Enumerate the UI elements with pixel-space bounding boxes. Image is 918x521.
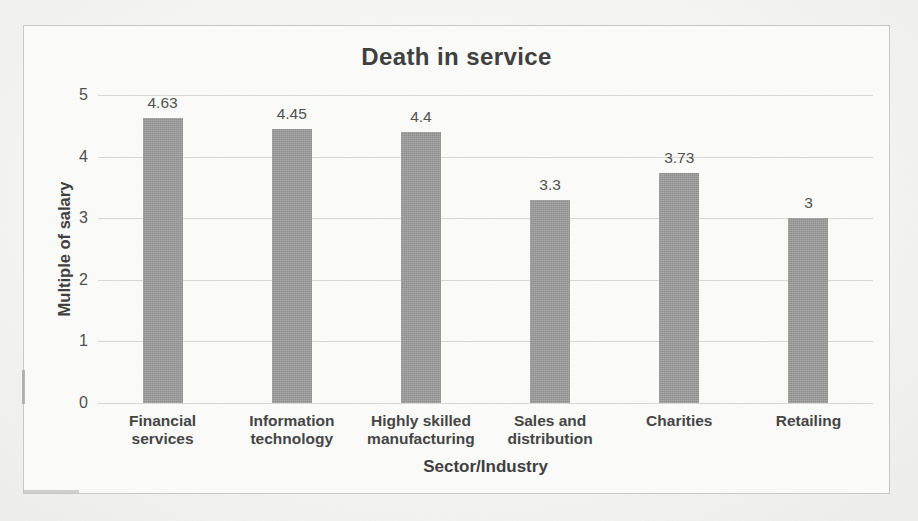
- bar-financial-services: [143, 118, 183, 403]
- bars-layer: 4.634.454.43.33.733: [98, 95, 873, 403]
- bar-sales-and-distribution: [530, 200, 570, 403]
- bar-information-technology: [272, 129, 312, 403]
- x-axis-category-labels: Financial servicesInformation technology…: [98, 412, 873, 448]
- category-label-highly-skilled-manufacturing: Highly skilled manufacturing: [356, 412, 485, 448]
- y-tick-label-2: 2: [42, 271, 88, 289]
- chart-panel: Death in service Multiple of salary 4.63…: [23, 25, 890, 494]
- bar-value-label: 3: [744, 195, 873, 211]
- y-tick-label-0: 0: [42, 394, 88, 412]
- category-label-sales-and-distribution: Sales and distribution: [486, 412, 615, 448]
- chart-title: Death in service: [24, 42, 889, 72]
- bar-highly-skilled-manufacturing: [401, 132, 441, 403]
- category-label-financial-services: Financial services: [98, 412, 227, 448]
- bar-slot: 3.73: [615, 95, 744, 403]
- category-label-information-technology: Information technology: [227, 412, 356, 448]
- y-tick-label-5: 5: [42, 86, 88, 104]
- scan-artifact-left-border: [22, 370, 25, 404]
- scan-artifact-bottom-border: [23, 490, 79, 493]
- bar-slot: 3: [744, 95, 873, 403]
- scanned-page: Death in service Multiple of salary 4.63…: [0, 0, 918, 521]
- bar-value-label: 4.45: [227, 106, 356, 122]
- bar-slot: 3.3: [486, 95, 615, 403]
- bar-value-label: 4.4: [356, 109, 485, 125]
- y-tick-label-3: 3: [42, 209, 88, 227]
- bar-value-label: 3.3: [486, 177, 615, 193]
- bar-charities: [659, 173, 699, 403]
- bar-slot: 4.45: [227, 95, 356, 403]
- category-label-charities: Charities: [615, 412, 744, 448]
- bar-slot: 4.63: [98, 95, 227, 403]
- y-axis-title: Multiple of salary: [54, 95, 74, 403]
- bar-retailing: [788, 218, 828, 403]
- bar-slot: 4.4: [356, 95, 485, 403]
- bar-value-label: 3.73: [615, 150, 744, 166]
- bar-value-label: 4.63: [98, 95, 227, 111]
- gridline-0: [98, 403, 873, 404]
- x-axis-title: Sector/Industry: [98, 457, 873, 477]
- y-tick-label-1: 1: [42, 332, 88, 350]
- plot-area: 4.634.454.43.33.733: [98, 95, 873, 403]
- y-tick-label-4: 4: [42, 148, 88, 166]
- category-label-retailing: Retailing: [744, 412, 873, 448]
